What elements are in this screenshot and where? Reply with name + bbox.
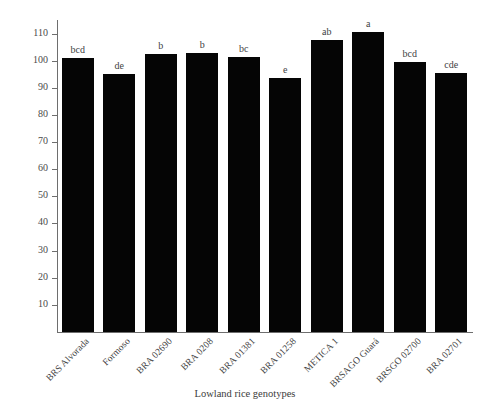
bar-significance-label: b — [200, 39, 205, 50]
bar: a — [352, 32, 384, 332]
bar-significance-label: ab — [322, 26, 331, 37]
x-axis-tick-label: BRSGO 02700 — [374, 336, 423, 385]
bar: e — [269, 78, 301, 332]
y-axis-tick-label: 70 — [38, 135, 48, 146]
bar-significance-label: bcd — [403, 48, 417, 59]
bar-significance-label: a — [366, 18, 370, 29]
x-axis-tick-label: BRA 02701 — [425, 336, 465, 376]
bar-significance-label: cde — [444, 59, 458, 70]
x-axis-tick-label: Formoso — [101, 336, 132, 367]
y-axis-tick-label: 30 — [38, 244, 48, 255]
plot-area: 102030405060708090100110 bcddebbbceababc… — [57, 20, 472, 332]
bar-significance-label: bcd — [71, 44, 85, 55]
x-axis-tick-label: BRA 01381 — [217, 336, 257, 376]
bar: b — [145, 54, 177, 332]
x-axis-tick-label: METICA 1 — [302, 336, 340, 374]
bar: bcd — [394, 62, 426, 332]
bar: bcd — [62, 58, 94, 332]
y-axis-tick: 40 — [52, 223, 57, 224]
y-axis-tick-label: 90 — [38, 81, 48, 92]
bar: cde — [435, 73, 467, 332]
y-axis-tick: 110 — [52, 34, 57, 35]
y-axis-tick: 30 — [52, 251, 57, 252]
bar: ab — [311, 40, 343, 332]
bar: de — [103, 74, 135, 332]
y-axis-tick-label: 10 — [38, 298, 48, 309]
y-axis-tick: 70 — [52, 142, 57, 143]
y-axis-tick: 50 — [52, 196, 57, 197]
y-axis-tick: 20 — [52, 278, 57, 279]
y-axis-tick: 60 — [52, 169, 57, 170]
y-axis-line — [57, 20, 58, 333]
y-axis-tick: 100 — [52, 61, 57, 62]
y-axis-tick-label: 40 — [38, 216, 48, 227]
bar-significance-label: b — [158, 40, 163, 51]
bar-chart-figure: Plant height (cm) 1020304050607080901001… — [0, 0, 490, 410]
y-axis-tick-label: 80 — [38, 108, 48, 119]
bar-significance-label: bc — [239, 43, 248, 54]
x-axis-tick-label: BRA 02690 — [134, 336, 174, 376]
y-axis-tick-label: 50 — [38, 189, 48, 200]
x-axis-tick-label: BRA 0208 — [179, 336, 215, 372]
bar-significance-label: de — [115, 60, 124, 71]
y-axis-tick-label: 60 — [38, 162, 48, 173]
y-axis-tick-label: 110 — [33, 27, 48, 38]
y-axis-tick: 80 — [52, 115, 57, 116]
y-axis-tick-label: 20 — [38, 271, 48, 282]
x-axis-title: Lowland rice genotypes — [0, 388, 490, 399]
bar: b — [186, 53, 218, 332]
x-axis-line — [57, 332, 473, 333]
y-axis-tick: 90 — [52, 88, 57, 89]
bar: bc — [228, 57, 260, 332]
x-axis-tick-label: BRS Alvorada — [44, 336, 91, 383]
bar-significance-label: e — [283, 64, 287, 75]
y-axis-tick-label: 100 — [33, 54, 48, 65]
y-axis-tick: 10 — [52, 305, 57, 306]
x-axis-tick-label: BRA 01258 — [259, 336, 299, 376]
